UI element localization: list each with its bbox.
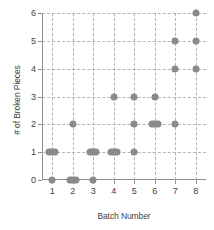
data-point — [110, 93, 117, 100]
y-tick-mark — [38, 97, 42, 98]
x-tick-mark — [114, 180, 115, 184]
x-axis-title: Batch Number — [36, 211, 212, 221]
y-tick-mark — [38, 180, 42, 181]
y-tick-label: 6 — [31, 8, 36, 18]
data-point — [131, 121, 138, 128]
x-tick-label: 1 — [50, 186, 55, 196]
data-point — [192, 37, 199, 44]
gridline-horizontal — [42, 124, 206, 125]
y-tick-mark — [38, 13, 42, 14]
y-tick-label: 5 — [31, 36, 36, 46]
data-point — [172, 37, 179, 44]
x-tick-label: 8 — [193, 186, 198, 196]
data-point — [192, 10, 199, 17]
data-point — [131, 149, 138, 156]
y-axis-title: # of Broken Pieces — [10, 10, 24, 190]
x-tick-label: 3 — [91, 186, 96, 196]
y-tick-mark — [38, 152, 42, 153]
data-point — [192, 65, 199, 72]
x-tick-label: 6 — [152, 186, 157, 196]
gridline-vertical — [73, 13, 74, 180]
y-tick-label: 3 — [31, 92, 36, 102]
data-point — [172, 121, 179, 128]
x-tick-mark — [175, 180, 176, 184]
gridline-horizontal — [42, 69, 206, 70]
scatter-chart: # of Broken Pieces Batch Number 0123456 … — [0, 0, 214, 230]
y-tick-mark — [38, 124, 42, 125]
data-point — [87, 149, 100, 156]
x-tick-label: 5 — [132, 186, 137, 196]
x-tick-mark — [155, 180, 156, 184]
y-tick-mark — [38, 69, 42, 70]
x-tick-label: 7 — [173, 186, 178, 196]
data-point — [131, 93, 138, 100]
data-point — [148, 121, 161, 128]
x-tick-label: 2 — [70, 186, 75, 196]
data-point — [69, 121, 76, 128]
gridline-horizontal — [42, 13, 206, 14]
gridline-horizontal — [42, 41, 206, 42]
x-tick-label: 4 — [111, 186, 116, 196]
data-point — [49, 177, 56, 184]
x-tick-mark — [196, 180, 197, 184]
x-tick-mark — [134, 180, 135, 184]
data-point — [90, 177, 97, 184]
y-tick-label: 1 — [31, 147, 36, 157]
data-point — [172, 65, 179, 72]
gridline-horizontal — [42, 97, 206, 98]
y-tick-label: 4 — [31, 64, 36, 74]
y-tick-label: 0 — [31, 175, 36, 185]
gridline-horizontal — [42, 152, 206, 153]
plot-area: 0123456 12345678 — [42, 13, 206, 180]
data-point — [66, 177, 79, 184]
data-point — [151, 93, 158, 100]
y-tick-mark — [38, 41, 42, 42]
data-point — [107, 149, 120, 156]
data-point — [46, 149, 59, 156]
y-tick-label: 2 — [31, 119, 36, 129]
